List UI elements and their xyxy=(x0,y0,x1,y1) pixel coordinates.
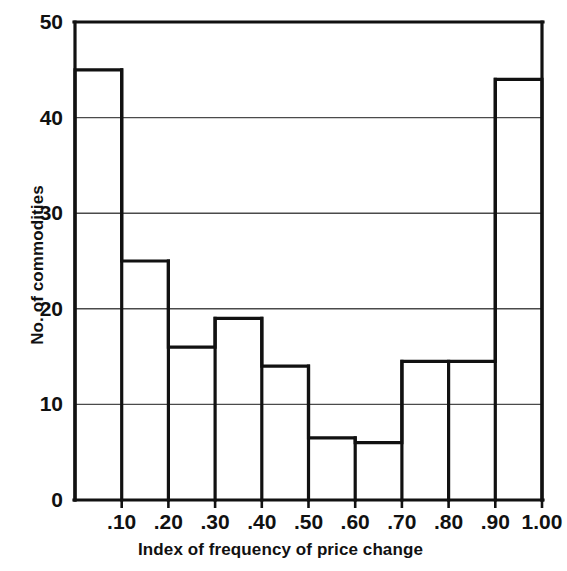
x-axis-group xyxy=(74,500,543,508)
x-axis-title: Index of frequency of price change xyxy=(0,540,561,560)
y-tick-label-50: 50 xyxy=(5,11,63,32)
x-tick-label-1.00: 1.00 xyxy=(512,511,567,532)
y-tick-label-40: 40 xyxy=(5,107,63,128)
histogram-bars-group xyxy=(75,70,542,500)
y-tick-label-0: 0 xyxy=(5,489,63,510)
y-axis-title: No. of commodities xyxy=(28,165,48,365)
y-tick-label-10: 10 xyxy=(5,393,63,414)
